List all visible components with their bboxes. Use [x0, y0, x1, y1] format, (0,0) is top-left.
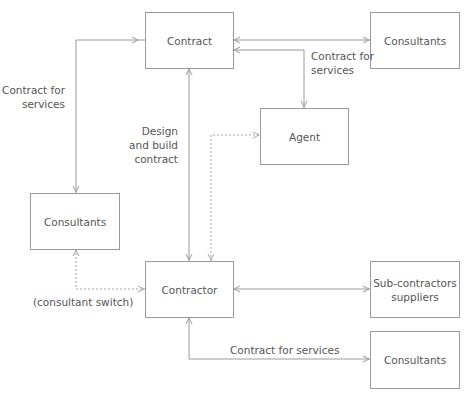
node-consultants-bottom-label: Consultants: [384, 353, 446, 367]
edge-label-left-services: Contract for services: [2, 83, 65, 111]
edge-contract-consultants-left: [76, 40, 145, 193]
edge-label-top-services: Contract for services: [311, 49, 381, 77]
node-contractor-label: Contractor: [162, 283, 218, 297]
node-subcontractors: Sub-contractors suppliers: [370, 261, 460, 318]
edge-consultant-switch-dashed: [76, 249, 145, 289]
node-consultants-left-label: Consultants: [44, 215, 106, 229]
node-consultants-left: Consultants: [30, 193, 120, 250]
node-consultants-top-label: Consultants: [384, 34, 446, 48]
node-subcontractors-label: Sub-contractors suppliers: [373, 276, 457, 304]
node-consultants-bottom: Consultants: [370, 331, 460, 389]
node-contractor: Contractor: [145, 261, 234, 318]
edge-label-design-build: Design and build contract: [120, 124, 178, 166]
edge-label-bottom-services: Contract for services: [230, 343, 370, 357]
node-consultants-top: Consultants: [370, 12, 460, 69]
edge-label-consultant-switch: (consultant switch): [33, 295, 143, 309]
diagram-canvas: Contract Consultants Agent Consultants C…: [0, 0, 473, 399]
node-agent-label: Agent: [289, 130, 320, 144]
node-agent: Agent: [260, 108, 349, 165]
node-contract: Contract: [145, 12, 234, 69]
edge-contract-agent: [233, 50, 304, 108]
edge-contractor-agent-dashed: [211, 135, 260, 261]
node-contract-label: Contract: [167, 34, 212, 48]
